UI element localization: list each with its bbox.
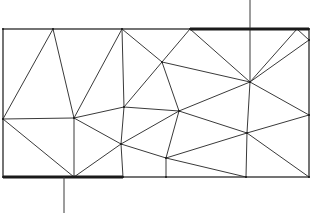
mesh-edge <box>53 29 74 118</box>
mesh-edge <box>250 82 309 115</box>
mesh-edge <box>124 62 162 107</box>
mesh-edge <box>247 82 250 133</box>
mesh-node <box>308 39 310 41</box>
mesh-edge <box>74 107 124 118</box>
mesh-edge <box>74 29 122 118</box>
mesh-node <box>308 28 310 30</box>
mesh-node <box>245 176 247 178</box>
mesh-edge <box>3 119 74 177</box>
mesh-edge <box>74 144 121 177</box>
mesh-edge <box>74 118 121 144</box>
mesh-edge <box>246 133 247 177</box>
mesh-edge <box>124 107 179 111</box>
mesh-node <box>249 28 251 30</box>
mesh-edge <box>166 158 246 177</box>
mesh-edge <box>250 40 309 82</box>
mesh-edge <box>162 62 250 82</box>
mesh-node <box>2 176 4 178</box>
mesh-edge <box>121 107 124 144</box>
mesh-node <box>2 28 4 30</box>
mesh-edge <box>121 111 179 144</box>
mesh-node <box>161 61 163 63</box>
mesh-edge <box>247 133 309 177</box>
mesh-node <box>52 28 54 30</box>
mesh-edge <box>166 133 247 158</box>
mesh-node <box>189 28 191 30</box>
mesh-node <box>121 28 123 30</box>
mesh-node <box>165 176 167 178</box>
mesh-node <box>73 176 75 178</box>
mesh-edge <box>190 29 250 82</box>
mesh-edge <box>247 115 309 133</box>
mesh-node <box>178 110 180 112</box>
mesh-node <box>165 157 167 159</box>
mesh-edge <box>162 29 190 62</box>
mesh-edge <box>250 29 297 82</box>
mesh-edge <box>166 111 179 158</box>
mesh-node <box>122 176 124 178</box>
mesh-edge <box>122 29 162 62</box>
mesh-node <box>308 114 310 116</box>
mesh-node <box>73 117 75 119</box>
mesh-edge <box>121 144 123 177</box>
mesh-edge <box>297 29 309 40</box>
mesh-edge <box>162 62 179 111</box>
mesh-edge <box>3 118 74 119</box>
mesh-node <box>249 81 251 83</box>
mesh-edge <box>122 29 124 107</box>
mesh-edge <box>179 111 247 133</box>
triangular-mesh-diagram <box>0 0 310 214</box>
mesh-edge <box>3 29 53 119</box>
mesh-edges <box>3 29 309 177</box>
mesh-edge <box>121 144 166 158</box>
mesh-node <box>123 106 125 108</box>
mesh-node <box>308 176 310 178</box>
mesh-edge <box>179 82 250 111</box>
lead-wires <box>64 0 250 213</box>
mesh-node <box>120 143 122 145</box>
mesh-node <box>2 118 4 120</box>
mesh-node <box>296 28 298 30</box>
mesh-node <box>246 132 248 134</box>
